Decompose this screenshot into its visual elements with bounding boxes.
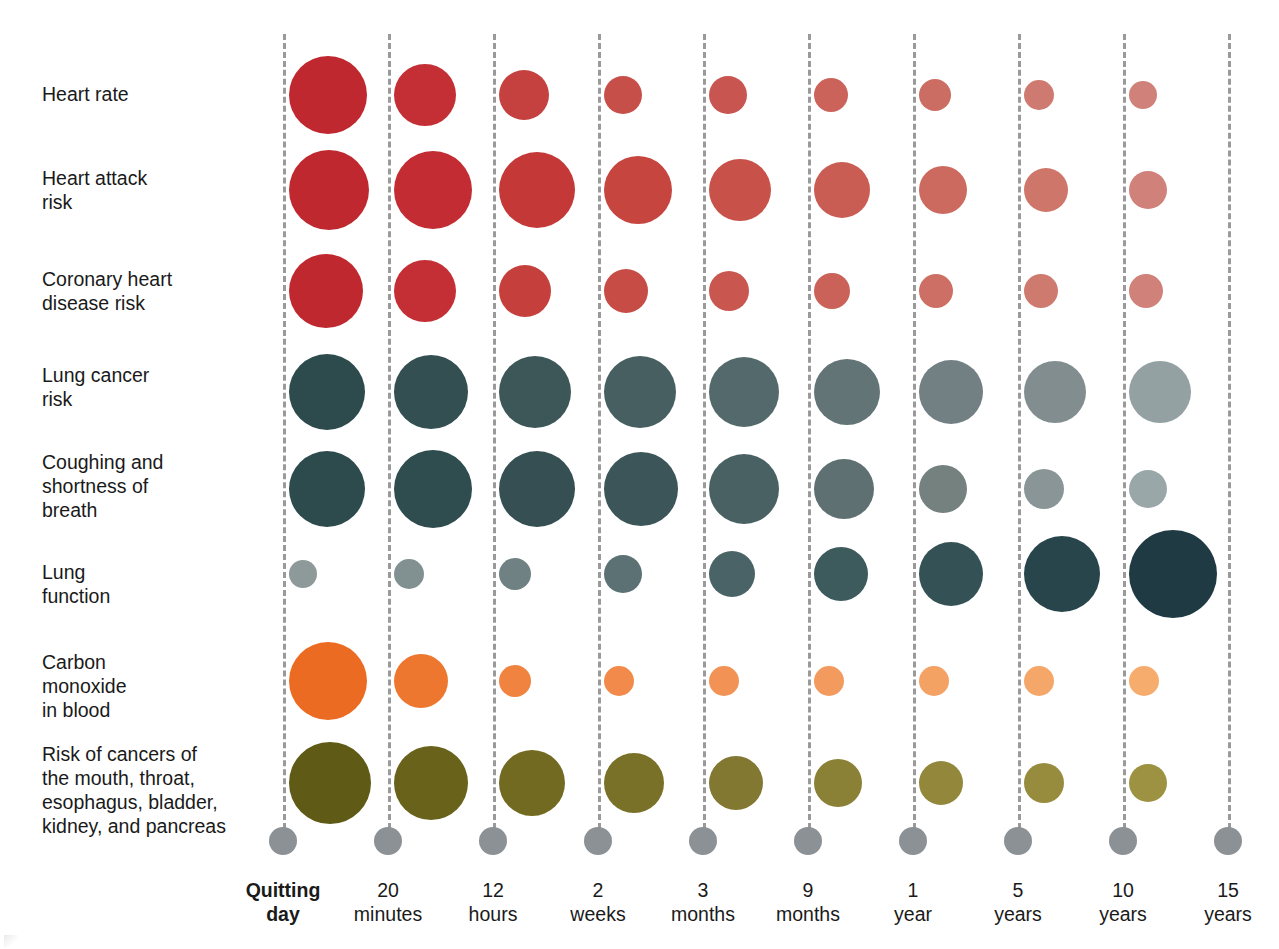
bubble	[289, 560, 317, 588]
bubble	[604, 76, 642, 114]
bubble	[814, 162, 870, 218]
bubble	[709, 756, 763, 810]
bubble	[604, 555, 642, 593]
bubble	[814, 759, 862, 807]
bubble	[709, 357, 779, 427]
column-guide-2	[388, 34, 391, 829]
bubble	[709, 159, 771, 221]
bubble	[1129, 81, 1157, 109]
bubble	[604, 356, 676, 428]
bubble	[814, 78, 848, 112]
column-guide-4	[598, 34, 601, 829]
column-guide-3	[493, 34, 496, 829]
bubble	[499, 451, 575, 527]
bubble	[499, 356, 571, 428]
column-guide-7	[913, 34, 916, 829]
baseline-dot-9	[1109, 827, 1137, 855]
bubble	[394, 151, 472, 229]
column-guide-1	[283, 34, 286, 829]
bubble	[814, 273, 850, 309]
bubble	[604, 156, 672, 224]
bubble	[1024, 168, 1068, 212]
row-label-coronary-heart-disease-risk: Coronary heart disease risk	[42, 267, 172, 315]
bubble	[919, 465, 967, 513]
row-label-lung-cancer-risk: Lung cancer risk	[42, 363, 149, 411]
row-label-risk-of-cancers-of-the-mouth-throat-esophagus-bladder-kidney-and-pancreas: Risk of cancers of the mouth, throat, es…	[42, 742, 226, 838]
baseline-dot-6	[794, 827, 822, 855]
bubble	[499, 152, 575, 228]
bubble	[814, 359, 880, 425]
bubble	[499, 665, 531, 697]
baseline-dot-3	[479, 827, 507, 855]
bubble	[1129, 171, 1167, 209]
bubble	[1024, 361, 1086, 423]
bubble	[814, 547, 868, 601]
bubble	[499, 750, 565, 816]
bubble	[394, 559, 424, 589]
bubble	[1129, 666, 1159, 696]
bubble	[604, 753, 664, 813]
bubble	[499, 558, 531, 590]
bubble	[1024, 469, 1064, 509]
bubble	[919, 166, 967, 214]
column-guide-8	[1018, 34, 1021, 829]
bubble	[1129, 530, 1217, 618]
bubble	[289, 642, 367, 720]
baseline-dot-1	[269, 827, 297, 855]
bubble	[919, 542, 983, 606]
bubble	[394, 64, 456, 126]
bubble	[289, 354, 365, 430]
bubble	[1024, 666, 1054, 696]
bubble	[499, 265, 551, 317]
bubble	[814, 459, 874, 519]
column-guide-9	[1123, 34, 1126, 829]
bubble	[1129, 470, 1167, 508]
column-guide-6	[808, 34, 811, 829]
baseline-dot-8	[1004, 827, 1032, 855]
bubble	[394, 260, 456, 322]
bubble	[604, 666, 634, 696]
baseline-dot-10	[1214, 827, 1242, 855]
column-guide-10	[1228, 34, 1231, 829]
bubble	[289, 254, 363, 328]
bubble	[1024, 80, 1054, 110]
bubble	[289, 56, 367, 134]
bubble	[289, 451, 365, 527]
baseline-dot-5	[689, 827, 717, 855]
bubble	[499, 70, 549, 120]
bubble	[709, 454, 779, 524]
bubble	[394, 654, 448, 708]
bubble	[604, 452, 678, 526]
bubble	[1129, 274, 1163, 308]
baseline-dot-2	[374, 827, 402, 855]
bubble	[394, 355, 468, 429]
bubble	[919, 79, 951, 111]
row-label-carbon-monoxide-in-blood: Carbon monoxide in blood	[42, 650, 127, 722]
bubble	[1024, 536, 1100, 612]
bubble	[1129, 764, 1167, 802]
smoking-cessation-timeline-chart: Heart rateHeart attack riskCoronary hear…	[0, 0, 1279, 949]
bubble	[289, 742, 371, 824]
baseline-dot-4	[584, 827, 612, 855]
bubble	[289, 150, 369, 230]
bubble	[919, 761, 963, 805]
row-label-heart-attack-risk: Heart attack risk	[42, 166, 147, 214]
bubble	[814, 666, 844, 696]
row-label-coughing-and-shortness-of-breath: Coughing and shortness of breath	[42, 450, 163, 522]
bubble	[709, 271, 749, 311]
bubble	[919, 360, 983, 424]
bubble	[604, 269, 648, 313]
bubble	[394, 450, 472, 528]
bubble	[709, 666, 739, 696]
bubble	[394, 746, 468, 820]
row-label-lung-function: Lung function	[42, 560, 110, 608]
x-axis-tick-label-10: 15 years	[1163, 878, 1279, 926]
row-label-heart-rate: Heart rate	[42, 82, 129, 106]
bubble	[709, 551, 755, 597]
bubble	[919, 666, 949, 696]
bubble	[919, 274, 953, 308]
bubble	[1024, 274, 1058, 308]
bubble	[1129, 361, 1191, 423]
baseline-dot-7	[899, 827, 927, 855]
bubble	[1024, 763, 1064, 803]
